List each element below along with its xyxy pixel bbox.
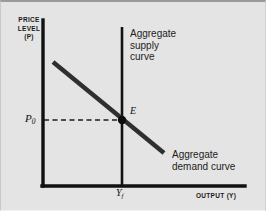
as-label-line-2: supply (130, 40, 176, 52)
y-axis-title-line-1: PRICE (14, 16, 44, 25)
y-axis-title-line-3: (P) (14, 33, 44, 42)
equilibrium-point-marker (118, 116, 126, 124)
aggregate-supply-demand-figure: PRICE LEVEL (P) OUTPUT (Y) Aggregate sup… (0, 0, 266, 211)
y-axis-title-line-2: LEVEL (14, 25, 44, 34)
y-axis-title: PRICE LEVEL (P) (14, 16, 44, 42)
output-full-employment-label: Yf (116, 187, 123, 199)
price-level-equilibrium-label: P0 (25, 112, 35, 126)
aggregate-demand-curve (53, 62, 164, 153)
ad-label-line-1: Aggregate (172, 149, 235, 161)
price-level-subscript: 0 (32, 117, 36, 126)
x-axis-title: OUTPUT (Y) (196, 192, 236, 201)
as-label-line-1: Aggregate (130, 28, 176, 40)
as-label-line-3: curve (130, 51, 176, 63)
aggregate-supply-curve-label: Aggregate supply curve (130, 28, 176, 63)
output-subscript: f (122, 192, 124, 199)
ad-label-line-2: demand curve (172, 161, 235, 173)
price-level-symbol: P (25, 112, 32, 124)
equilibrium-point-label: E (130, 105, 136, 116)
aggregate-demand-curve-label: Aggregate demand curve (172, 149, 235, 172)
